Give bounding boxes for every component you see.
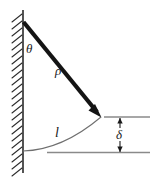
- rod-length-label-rho: ρ: [55, 64, 61, 77]
- arc-curve-icon: [23, 117, 101, 151]
- mechanics-diagram: θ ρ l δ: [0, 0, 151, 179]
- hatched-wall-icon: [12, 14, 22, 176]
- diagram-canvas: [0, 0, 151, 179]
- deflection-label-delta: δ: [115, 128, 123, 141]
- arc-length-label-l: l: [55, 126, 59, 140]
- angle-label-theta: θ: [26, 42, 32, 55]
